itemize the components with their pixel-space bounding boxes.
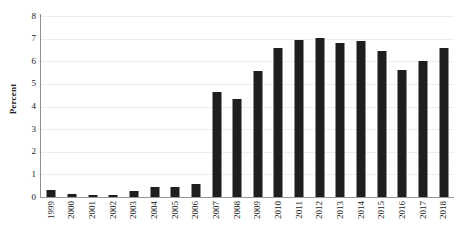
bar-slot — [330, 16, 351, 197]
bar-slot — [206, 16, 227, 197]
x-tick-label: 2012 — [315, 201, 324, 219]
x-tick-slot: 2017 — [413, 200, 434, 245]
x-tick-slot: 2005 — [165, 200, 186, 245]
x-tick-label: 2013 — [336, 201, 345, 219]
y-tick-label: 8 — [19, 12, 36, 21]
bar[interactable] — [295, 40, 304, 197]
bar-slot — [41, 16, 62, 197]
x-tick-label: 2010 — [274, 201, 283, 219]
x-tick-slot: 2011 — [289, 200, 310, 245]
bar[interactable] — [47, 190, 56, 197]
x-tick-slot: 1999 — [41, 200, 62, 245]
x-tick-label: 2001 — [88, 201, 97, 219]
x-tick-slot: 2002 — [103, 200, 124, 245]
bar[interactable] — [171, 187, 180, 197]
y-axis-tick-labels: 012345678 — [19, 16, 36, 197]
bar[interactable] — [129, 191, 138, 197]
x-tick-label: 1999 — [47, 201, 56, 219]
bar-slot — [82, 16, 103, 197]
x-tick-label: 2004 — [150, 201, 159, 219]
bar[interactable] — [377, 51, 386, 197]
bar[interactable] — [233, 99, 242, 197]
x-tick-slot: 2007 — [206, 200, 227, 245]
bar-slot — [62, 16, 83, 197]
bar[interactable] — [274, 48, 283, 197]
x-tick-slot: 2000 — [62, 200, 83, 245]
bars-layer — [41, 16, 454, 197]
x-tick-label: 2002 — [109, 201, 118, 219]
bar-slot — [186, 16, 207, 197]
bar-slot — [124, 16, 145, 197]
bar-chart-figure: Percent 012345678 1999200020012002200320… — [0, 0, 462, 245]
x-tick-slot: 2015 — [371, 200, 392, 245]
bar[interactable] — [88, 195, 97, 197]
x-tick-slot: 2004 — [144, 200, 165, 245]
y-tick-label: 7 — [19, 34, 36, 43]
bar-slot — [371, 16, 392, 197]
bar[interactable] — [191, 184, 200, 197]
bar[interactable] — [398, 70, 407, 197]
bar-slot — [351, 16, 372, 197]
bar-slot — [165, 16, 186, 197]
x-tick-label: 2005 — [171, 201, 180, 219]
y-tick-label: 0 — [19, 193, 36, 202]
y-axis-title-label: Percent — [8, 83, 18, 114]
x-tick-label: 2015 — [377, 201, 386, 219]
y-tick-label: 3 — [19, 125, 36, 134]
x-tick-slot: 2014 — [351, 200, 372, 245]
bar[interactable] — [212, 92, 221, 197]
x-tick-label: 2006 — [191, 201, 200, 219]
bar-slot — [227, 16, 248, 197]
y-tick-label: 6 — [19, 57, 36, 66]
y-tick-label: 1 — [19, 170, 36, 179]
x-tick-slot: 2018 — [433, 200, 454, 245]
bar-slot — [248, 16, 269, 197]
bar[interactable] — [419, 61, 428, 197]
x-tick-slot: 2001 — [82, 200, 103, 245]
bar-slot — [392, 16, 413, 197]
y-axis-title: Percent — [6, 0, 20, 197]
bar-slot — [413, 16, 434, 197]
x-tick-slot: 2003 — [124, 200, 145, 245]
bar-slot — [268, 16, 289, 197]
x-tick-slot: 2010 — [268, 200, 289, 245]
y-tick-label: 5 — [19, 79, 36, 88]
x-tick-label: 2011 — [295, 201, 304, 219]
y-tick-label: 2 — [19, 147, 36, 156]
x-tick-label: 2017 — [419, 201, 428, 219]
x-tick-label: 2000 — [67, 201, 76, 219]
gridline-0 — [41, 197, 454, 198]
x-tick-slot: 2008 — [227, 200, 248, 245]
x-tick-label: 2018 — [439, 201, 448, 219]
x-tick-label: 2016 — [398, 201, 407, 219]
bar[interactable] — [336, 43, 345, 197]
x-tick-label: 2009 — [253, 201, 262, 219]
bar-slot — [103, 16, 124, 197]
bar-slot — [309, 16, 330, 197]
bar[interactable] — [150, 187, 159, 197]
bar[interactable] — [253, 71, 262, 197]
x-tick-slot: 2016 — [392, 200, 413, 245]
bar-slot — [433, 16, 454, 197]
bar-slot — [289, 16, 310, 197]
bar[interactable] — [357, 41, 366, 197]
x-axis-tick-labels: 1999200020012002200320042005200620072008… — [41, 200, 454, 245]
x-tick-label: 2014 — [357, 201, 366, 219]
x-tick-label: 2003 — [129, 201, 138, 219]
x-tick-slot: 2012 — [309, 200, 330, 245]
x-tick-label: 2008 — [233, 201, 242, 219]
bar[interactable] — [109, 195, 118, 197]
bar[interactable] — [439, 48, 448, 197]
y-tick-label: 4 — [19, 102, 36, 111]
plot-area — [41, 16, 454, 197]
x-tick-label: 2007 — [212, 201, 221, 219]
x-tick-slot: 2006 — [186, 200, 207, 245]
bar[interactable] — [67, 194, 76, 197]
x-tick-slot: 2013 — [330, 200, 351, 245]
bar-slot — [144, 16, 165, 197]
bar[interactable] — [315, 38, 324, 198]
x-tick-slot: 2009 — [248, 200, 269, 245]
